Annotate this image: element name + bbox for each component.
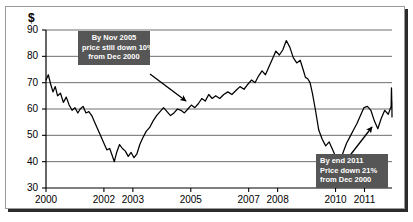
y-axis-tick-label: 70 xyxy=(16,77,38,88)
x-axis-tick-label: 2008 xyxy=(258,194,298,205)
y-axis-tick-label: 90 xyxy=(16,24,38,35)
y-axis-tick-label: 50 xyxy=(16,129,38,140)
annotation-callout-2011: By end 2011 Price down 21% from Dec 2000 xyxy=(316,154,388,188)
x-axis-tick-label: 2005 xyxy=(171,194,211,205)
y-axis-tick-label: 60 xyxy=(16,103,38,114)
callout-2005-line-3: from Dec 2000 xyxy=(82,52,146,62)
callout-2005-line-1: By Nov 2005 xyxy=(82,33,146,43)
x-axis-tick-label: 2000 xyxy=(26,194,66,205)
callout-2011-line-2: Price down 21% xyxy=(320,166,384,176)
chart-plot-area xyxy=(0,0,413,222)
annotation-arrows xyxy=(150,74,372,158)
callout-2005-arrow xyxy=(150,74,186,101)
annotation-callout-2005: By Nov 2005 price still down 10% from De… xyxy=(78,31,150,65)
chart-figure: $ 90807060504030 20002002200320052007200… xyxy=(0,0,413,222)
y-axis-tick-label: 30 xyxy=(16,182,38,193)
callout-2011-line-1: By end 2011 xyxy=(320,156,384,166)
callout-2011-line-3: from Dec 2000 xyxy=(320,175,384,185)
y-axis-tick-label: 80 xyxy=(16,50,38,61)
x-axis-tick-label: 2011 xyxy=(344,194,384,205)
x-axis-tick-label: 2003 xyxy=(113,194,153,205)
callout-2005-line-2: price still down 10% xyxy=(82,43,146,53)
y-axis-tick-label: 40 xyxy=(16,156,38,167)
x-axis-ticks xyxy=(46,188,364,192)
